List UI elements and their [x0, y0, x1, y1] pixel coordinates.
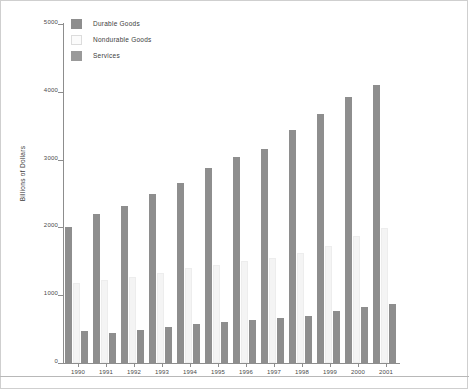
bar-nondurable-goods [297, 253, 304, 363]
bar-durable-goods [361, 307, 368, 363]
bar-services [205, 168, 212, 363]
bar-nondurable-goods [101, 280, 108, 363]
legend-swatch-icon [71, 51, 82, 61]
bar-nondurable-goods [269, 258, 276, 363]
bar-durable-goods [305, 316, 312, 363]
y-axis-tick-mark [58, 363, 64, 364]
bar-nondurable-goods [381, 228, 388, 363]
bar-durable-goods [165, 327, 172, 363]
legend-label: Durable Goods [93, 20, 140, 27]
bar-group [120, 24, 148, 363]
bar-services [233, 157, 240, 363]
y-axis-title: Billions of Dollars [19, 114, 26, 234]
bar-durable-goods [333, 311, 340, 363]
bar-group [148, 24, 176, 363]
bar-group [288, 24, 316, 363]
bar-nondurable-goods [325, 246, 332, 363]
plot-area [64, 24, 400, 363]
y-axis-tick-label: 2000 [44, 222, 58, 228]
x-axis-tick-mark [162, 363, 163, 367]
legend-label: Services [93, 52, 120, 59]
x-axis-tick-mark [78, 363, 79, 367]
bar-nondurable-goods [157, 273, 164, 363]
legend-swatch-icon [71, 19, 82, 29]
y-axis-tick-label: 5000 [44, 19, 58, 25]
bar-nondurable-goods [241, 261, 248, 363]
bar-group [204, 24, 232, 363]
bar-nondurable-goods [73, 283, 80, 363]
bar-group [232, 24, 260, 363]
chart-page: Billions of Dollars 01000200030004000500… [0, 0, 469, 390]
bar-chart: Billions of Dollars 01000200030004000500… [0, 0, 469, 390]
bar-services [289, 130, 296, 363]
y-axis-tick-label: 3000 [44, 155, 58, 161]
bar-group [92, 24, 120, 363]
legend-swatch-icon [71, 35, 82, 45]
bar-group [372, 24, 400, 363]
bar-services [317, 114, 324, 363]
x-axis-tick-mark [386, 363, 387, 367]
x-axis-tick-mark [106, 363, 107, 367]
bar-group [260, 24, 288, 363]
y-axis-tick-label: 1000 [44, 290, 58, 296]
bar-services [345, 97, 352, 363]
legend-label: Nondurable Goods [93, 36, 152, 43]
x-axis-tick-label: 2001 [366, 369, 406, 375]
x-axis-tick-mark [274, 363, 275, 367]
bar-durable-goods [109, 333, 116, 363]
bar-services [373, 85, 380, 363]
bar-group [64, 24, 92, 363]
bar-durable-goods [221, 322, 228, 363]
bar-nondurable-goods [185, 268, 192, 363]
bar-durable-goods [81, 331, 88, 363]
bar-durable-goods [389, 304, 396, 363]
x-axis-tick-mark [330, 363, 331, 367]
y-axis-tick-label: 4000 [44, 87, 58, 93]
bar-services [65, 227, 72, 363]
x-axis-tick-mark [218, 363, 219, 367]
x-axis-tick-mark [358, 363, 359, 367]
bar-durable-goods [137, 330, 144, 363]
bar-nondurable-goods [129, 277, 136, 363]
x-axis-tick-mark [302, 363, 303, 367]
x-axis-tick-mark [246, 363, 247, 367]
bar-nondurable-goods [353, 236, 360, 363]
bar-services [177, 183, 184, 363]
bar-group [176, 24, 204, 363]
bar-durable-goods [249, 320, 256, 363]
bar-durable-goods [277, 318, 284, 363]
bar-group [316, 24, 344, 363]
x-axis-line [63, 363, 400, 364]
bar-services [261, 149, 268, 363]
x-axis-tick-mark [190, 363, 191, 367]
bar-group [344, 24, 372, 363]
bar-durable-goods [193, 324, 200, 363]
bar-services [149, 194, 156, 363]
x-axis-tick-mark [134, 363, 135, 367]
bar-nondurable-goods [213, 265, 220, 363]
bar-services [121, 206, 128, 363]
bar-services [93, 214, 100, 363]
